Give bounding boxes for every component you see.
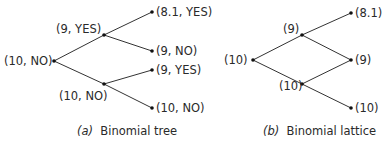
lattice-node-up: (9) bbox=[283, 22, 299, 36]
tree-node-root: (10, NO) bbox=[4, 54, 53, 68]
lattice-node-middle: (9) bbox=[355, 53, 371, 67]
tree-caption-letter: (a) bbox=[77, 124, 93, 138]
lattice-node-up-up: (8.1) bbox=[355, 6, 382, 20]
tree-caption: (a) Binomial tree bbox=[77, 124, 177, 138]
tree-node-down-down: (10, NO) bbox=[156, 101, 205, 115]
tree-node-up-up: (8.1, YES) bbox=[156, 5, 212, 19]
tree-node-down-up: (9, YES) bbox=[156, 63, 201, 77]
lattice-node-down: (10) bbox=[279, 79, 303, 93]
tree-node-up-down: (9, NO) bbox=[156, 44, 197, 58]
lattice-caption: (b) Binomial lattice bbox=[263, 124, 376, 138]
lattice-node-down-down: (10) bbox=[355, 101, 379, 115]
lattice-caption-letter: (b) bbox=[263, 124, 279, 138]
tree-node-up: (9, YES) bbox=[56, 22, 101, 36]
tree-node-down: (10, NO) bbox=[59, 89, 108, 103]
lattice-node-root: (10) bbox=[224, 53, 248, 67]
lattice-caption-text: Binomial lattice bbox=[287, 124, 377, 138]
tree-caption-text: Binomial tree bbox=[100, 124, 177, 138]
